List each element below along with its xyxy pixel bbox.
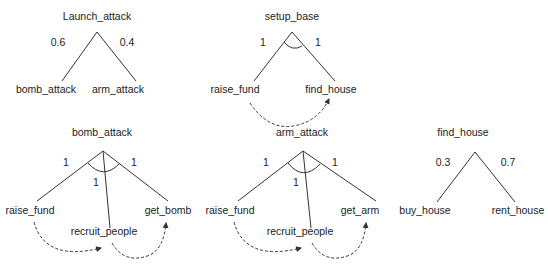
edge-label: 1 — [293, 176, 299, 188]
child-node: get_arm — [341, 204, 380, 216]
child-node: bomb_attack — [16, 83, 77, 95]
edge-label: 0.7 — [501, 156, 516, 168]
root-node: find_house — [437, 126, 489, 138]
edge-label: 0.3 — [436, 156, 451, 168]
tree-bomb-attack: bomb_attack 1 1 1 raise_fund recruit_peo… — [5, 126, 191, 258]
tree-launch-attack: Launch_attack 0.6 0.4 bomb_attack arm_at… — [16, 10, 145, 95]
edge — [303, 151, 311, 228]
edge-label: 1 — [131, 156, 137, 168]
child-node: recruit_people — [267, 225, 334, 237]
edge-label: 1 — [263, 156, 269, 168]
child-node: raise_fund — [5, 204, 54, 216]
child-node: recruit_people — [71, 225, 138, 237]
edge-label: 1 — [63, 156, 69, 168]
tree-arm-attack: arm_attack 1 1 1 raise_fund recruit_peop… — [205, 126, 379, 258]
edge-label: 1 — [93, 176, 99, 188]
child-node: get_bomb — [145, 204, 192, 216]
root-node: bomb_attack — [72, 126, 133, 138]
edge-label: 0.6 — [51, 36, 66, 48]
edge — [303, 151, 376, 201]
root-node: Launch_attack — [63, 10, 132, 22]
goal-decomposition-diagram: Launch_attack 0.6 0.4 bomb_attack arm_at… — [0, 0, 548, 272]
and-arc — [88, 163, 119, 172]
and-arc — [284, 42, 302, 48]
edge — [103, 151, 110, 228]
edge-label: 1 — [315, 36, 321, 48]
edge-label: 1 — [332, 156, 338, 168]
tree-setup-base: setup_base 1 1 raise_fund find_house — [210, 10, 356, 127]
sequence-arrow — [250, 99, 329, 127]
root-node: arm_attack — [276, 126, 329, 138]
edge-label: 0.4 — [120, 36, 135, 48]
child-node: raise_fund — [210, 83, 259, 95]
tree-find-house: find_house 0.3 0.7 buy_house rent_house — [399, 126, 544, 216]
child-node: raise_fund — [205, 204, 254, 216]
child-node: buy_house — [399, 204, 451, 216]
child-node: rent_house — [492, 204, 545, 216]
edge — [62, 32, 97, 81]
edge — [292, 32, 335, 81]
root-node: setup_base — [265, 10, 319, 22]
child-node: arm_attack — [92, 83, 145, 95]
child-node: find_house — [305, 83, 357, 95]
edge-label: 1 — [260, 36, 266, 48]
